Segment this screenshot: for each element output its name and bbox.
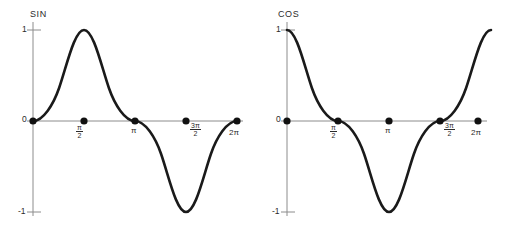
cos-marker-pi xyxy=(385,117,392,124)
sin-marker-0 xyxy=(29,117,36,124)
cos-xtick-label-pi: π xyxy=(385,126,391,135)
cos-marker-0 xyxy=(283,117,290,124)
cos-xtick-label-pi-over-2: π 2 xyxy=(330,124,337,139)
sin-marker-pi xyxy=(131,117,138,124)
sin-ytick-label-neg1: -1 xyxy=(18,206,26,216)
trig-figure: SIN 1 0 -1 π 2 π 3π 2 2π xyxy=(0,0,506,228)
fraction-3pi-over-2: 3π 2 xyxy=(190,122,201,137)
sin-title: SIN xyxy=(30,9,47,19)
sin-xtick-label-pi-over-2: π 2 xyxy=(76,124,83,139)
fraction-pi-over-2: π 2 xyxy=(330,124,337,139)
sin-panel: SIN 1 0 -1 π 2 π 3π 2 2π xyxy=(0,0,253,228)
cos-xtick-label-2pi: 2π xyxy=(471,128,481,137)
cos-plot-canvas xyxy=(253,0,506,228)
sin-marker-2pi xyxy=(233,117,240,124)
fraction-pi-over-2: π 2 xyxy=(76,124,83,139)
cos-ytick-label-neg1: -1 xyxy=(272,206,280,216)
fraction-3pi-over-2: 3π 2 xyxy=(444,122,455,137)
cos-ytick-label-0: 0 xyxy=(276,114,281,124)
sin-ytick-label-1: 1 xyxy=(22,24,27,34)
cos-marker-3pi-over-2 xyxy=(436,117,443,124)
cos-ytick-label-1: 1 xyxy=(276,24,281,34)
sin-xtick-label-2pi: 2π xyxy=(229,128,239,137)
sin-xtick-label-pi: π xyxy=(131,126,137,135)
cos-panel: COS 1 0 -1 π 2 π 3π 2 2π xyxy=(253,0,506,228)
cos-title: COS xyxy=(278,9,299,19)
cos-xtick-label-3pi-over-2: 3π 2 xyxy=(444,122,455,137)
sin-xtick-label-3pi-over-2: 3π 2 xyxy=(190,122,201,137)
sin-plot-canvas xyxy=(0,0,253,228)
sin-ytick-label-0: 0 xyxy=(22,114,27,124)
sin-marker-3pi-over-2 xyxy=(182,117,189,124)
cos-marker-2pi xyxy=(474,117,481,124)
